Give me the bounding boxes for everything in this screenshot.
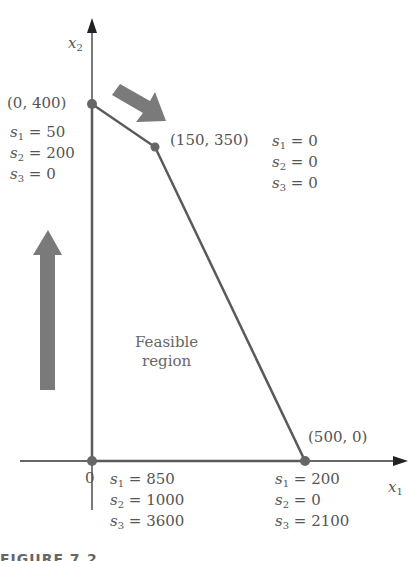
vertex-0-400: [87, 99, 97, 109]
slack-values-150-350: s1 = 0 s2 = 0 s3 = 0: [272, 132, 318, 195]
vertex-label-150-350: (150, 350): [170, 131, 249, 150]
slack-values-500-0: s1 = 200 s2 = 0 s3 = 2100: [275, 470, 349, 533]
diagonal-direction-arrow-icon: [112, 84, 166, 122]
feasible-region-label: Feasible region: [135, 333, 198, 371]
vertex-label-500-0: (500, 0): [308, 428, 367, 447]
x2-axis-arrowhead-icon: [87, 18, 97, 33]
vertex-150-350: [151, 143, 160, 152]
upward-direction-arrow-icon: [33, 230, 62, 390]
x1-axis-arrowhead-icon: [393, 456, 408, 466]
vertex-label-0-400: (0, 400): [7, 94, 66, 113]
vertex-origin: [87, 456, 97, 466]
vertex-500-0: [300, 456, 310, 466]
x2-axis-label: x2: [68, 34, 83, 53]
x1-axis-label: x1: [388, 478, 403, 497]
slack-values-origin: s1 = 850 s2 = 1000 s3 = 3600: [110, 470, 184, 533]
figure-caption: FIGURE 7.2: [0, 551, 98, 561]
origin-label: 0: [85, 469, 95, 488]
slack-values-0-400: s1 = 50 s2 = 200 s3 = 0: [10, 123, 75, 186]
